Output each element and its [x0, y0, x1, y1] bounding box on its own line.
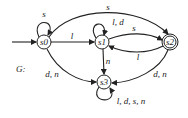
- edge-label: s: [106, 2, 110, 12]
- edge-label: s: [132, 23, 136, 33]
- edge-label: d, n: [45, 69, 59, 79]
- edge-label: s: [42, 9, 46, 19]
- edge-label: l, d, s, n: [117, 96, 146, 106]
- state-diagram: s0 s1 s2 s3 s l s d, n l, d s n l d, n l…: [0, 0, 188, 118]
- edge-s1-s3: [103, 49, 104, 74]
- edge-label: l: [71, 31, 74, 41]
- edge-label: l: [137, 52, 140, 62]
- edge-s0-s2: [49, 13, 168, 37]
- state-label: s3: [100, 77, 109, 87]
- state-label: s0: [40, 37, 49, 47]
- state-label: s1: [98, 37, 106, 47]
- edge-label: n: [106, 56, 111, 66]
- state-label: s2: [166, 37, 175, 47]
- edge-label: l, d: [112, 17, 124, 27]
- edge-s1-s2: [109, 34, 162, 40]
- graph-label: G:: [16, 64, 26, 74]
- edge-label: d, n: [153, 69, 167, 79]
